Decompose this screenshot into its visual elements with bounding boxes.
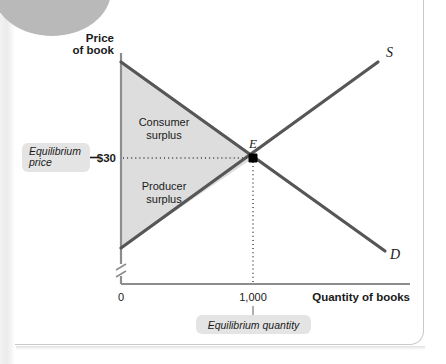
origin-tick-label: 0 (118, 291, 124, 303)
equilibrium-quantity-callout-label: Equilibrium quantity (208, 319, 300, 331)
equilibrium-price-callout-line2: price (28, 156, 52, 168)
x-tick-label-1000: 1,000 (239, 291, 267, 303)
demand-curve-label: D (389, 247, 400, 262)
producer-surplus-label-line2: surplus (146, 193, 182, 205)
equilibrium-quantity-callout: Equilibrium quantity (196, 306, 311, 334)
y-tick-label-30: $30 (97, 152, 116, 164)
supply-curve-label: S (386, 45, 393, 60)
consumer-surplus-label-line2: surplus (146, 129, 182, 141)
consumer-surplus-label-line1: Consumer (139, 116, 190, 128)
y-axis-title-line1: Price (86, 32, 114, 44)
equilibrium-point-marker (249, 154, 258, 163)
y-axis-title-line2: of book (72, 44, 114, 56)
producer-surplus-label-line1: Producer (142, 180, 187, 192)
supply-demand-chart: E S D Price of book Quantity of books 0 … (0, 0, 446, 364)
equilibrium-point-label: E (248, 136, 257, 151)
axis-break-mark (116, 264, 126, 277)
equilibrium-price-callout: Equilibrium price (22, 143, 90, 172)
x-axis-title: Quantity of books (312, 291, 410, 303)
